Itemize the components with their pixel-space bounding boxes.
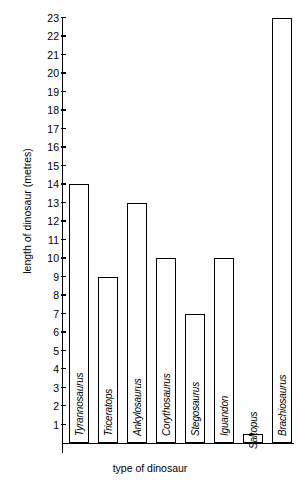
y-tick-label: 21 [35, 49, 59, 61]
y-tick-label: 22 [35, 30, 59, 42]
bar: Brachiosaurus [272, 18, 292, 443]
y-tick-mark [61, 128, 66, 129]
y-tick: 4 [28, 363, 66, 375]
bar-label: Iguandon [218, 396, 229, 436]
bar: Ankylosaurus [127, 203, 147, 443]
y-tick-mark [61, 239, 66, 240]
bar: Stegosaurus [185, 314, 205, 443]
bar-label: Saltopus [247, 412, 258, 449]
y-tick: 9 [28, 271, 66, 283]
y-tick-label: 17 [35, 123, 59, 135]
bar-label: Ankylosaurus [131, 378, 142, 436]
y-tick-mark [61, 91, 66, 92]
y-tick-mark [61, 72, 66, 73]
y-tick-label: 14 [35, 178, 59, 190]
y-tick-mark [61, 368, 66, 369]
y-tick-label: 8 [35, 289, 59, 301]
y-tick-mark [61, 183, 66, 184]
y-tick-mark [61, 165, 66, 166]
y-tick: 10 [28, 252, 66, 264]
y-tick: 7 [28, 308, 66, 320]
bar: Tyrannosaurus [69, 184, 89, 443]
y-tick-mark [61, 294, 66, 295]
y-tick-mark [61, 313, 66, 314]
y-tick-mark [61, 220, 66, 221]
y-tick-label: 10 [35, 252, 59, 264]
y-tick: 6 [28, 326, 66, 338]
y-tick: 3 [28, 382, 66, 394]
y-tick-label: 5 [35, 345, 59, 357]
y-tick-label: 11 [35, 234, 59, 246]
bar-label: Triceratops [102, 389, 113, 436]
y-tick-mark [61, 405, 66, 406]
y-tick-label: 2 [35, 400, 59, 412]
clipped-header-artifact [140, 0, 270, 7]
y-tick-label: 4 [35, 363, 59, 375]
y-tick-mark [61, 146, 66, 147]
y-tick: 21 [28, 49, 66, 61]
y-tick: 14 [28, 178, 66, 190]
y-tick: 23 [28, 12, 66, 24]
y-tick: 19 [28, 86, 66, 98]
y-tick-label: 23 [35, 12, 59, 24]
bar: Saltopus [243, 434, 263, 443]
y-tick: 13 [28, 197, 66, 209]
y-tick-label: 6 [35, 326, 59, 338]
y-tick: 11 [28, 234, 66, 246]
y-tick-mark [61, 424, 66, 425]
y-tick-label: 3 [35, 382, 59, 394]
y-tick-mark [61, 17, 66, 18]
y-tick-label: 16 [35, 141, 59, 153]
y-tick-label: 18 [35, 104, 59, 116]
y-tick: 17 [28, 123, 66, 135]
y-tick-label: 20 [35, 67, 59, 79]
y-tick-label: 13 [35, 197, 59, 209]
y-tick-mark [61, 109, 66, 110]
bar: Triceratops [98, 277, 118, 443]
y-tick-label: 1 [35, 419, 59, 431]
y-tick-label: 15 [35, 160, 59, 172]
bar: Iguandon [214, 258, 234, 443]
y-tick-mark [61, 387, 66, 388]
y-tick-mark [61, 202, 66, 203]
bar-chart: length of dinosaur (metres) 232221201918… [0, 0, 300, 486]
y-tick: 22 [28, 30, 66, 42]
plot-area: 2322212019181716151413121110987654321 Ty… [62, 10, 294, 447]
y-tick: 12 [28, 215, 66, 227]
bar-label: Corythosaurus [160, 374, 171, 436]
y-tick-mark [61, 331, 66, 332]
y-tick-mark [61, 350, 66, 351]
bar: Corythosaurus [156, 258, 176, 443]
y-tick: 15 [28, 160, 66, 172]
y-tick: 18 [28, 104, 66, 116]
y-tick: 2 [28, 400, 66, 412]
y-tick: 16 [28, 141, 66, 153]
y-tick: 20 [28, 67, 66, 79]
y-tick-label: 19 [35, 86, 59, 98]
y-tick: 1 [28, 419, 66, 431]
y-tick-label: 9 [35, 271, 59, 283]
y-tick-mark [61, 276, 66, 277]
y-tick-mark [61, 54, 66, 55]
y-tick: 5 [28, 345, 66, 357]
y-tick-label: 12 [35, 215, 59, 227]
y-tick-label: 7 [35, 308, 59, 320]
bar-label: Brachiosaurus [276, 375, 287, 436]
y-tick-mark [61, 35, 66, 36]
y-tick-mark [61, 257, 66, 258]
y-tick: 8 [28, 289, 66, 301]
bar-label: Stegosaurus [189, 382, 200, 436]
x-axis-line [62, 443, 294, 444]
x-axis-title: type of dinosaur [0, 462, 300, 474]
bar-label: Tyrannosaurus [73, 373, 84, 436]
